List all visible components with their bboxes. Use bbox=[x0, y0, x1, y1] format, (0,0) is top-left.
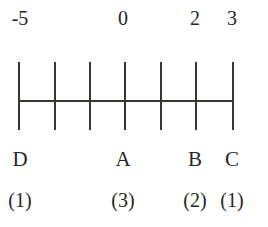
tick-mark-0 bbox=[18, 62, 20, 130]
number-line-figure: -5 0 2 3 D A B C (1) (3) (2) (1) bbox=[0, 0, 268, 227]
tick-mark-6 bbox=[232, 62, 234, 130]
point-label-d: D bbox=[12, 149, 27, 170]
scale-label-minus5: -5 bbox=[12, 8, 29, 28]
point-label-c: C bbox=[225, 149, 239, 170]
tick-mark-4 bbox=[160, 62, 162, 130]
count-label-c: (1) bbox=[220, 190, 243, 210]
scale-label-zero: 0 bbox=[118, 8, 128, 28]
tick-mark-1 bbox=[54, 62, 56, 130]
point-label-a: A bbox=[115, 149, 130, 170]
number-line-axis bbox=[18, 100, 234, 102]
count-label-d: (1) bbox=[8, 190, 31, 210]
tick-mark-2 bbox=[89, 62, 91, 130]
count-label-a: (3) bbox=[111, 190, 134, 210]
point-label-b: B bbox=[188, 149, 202, 170]
tick-mark-3 bbox=[124, 62, 126, 130]
count-label-b: (2) bbox=[183, 190, 206, 210]
tick-mark-5 bbox=[195, 62, 197, 130]
scale-label-two: 2 bbox=[190, 8, 200, 28]
scale-label-three: 3 bbox=[227, 8, 237, 28]
